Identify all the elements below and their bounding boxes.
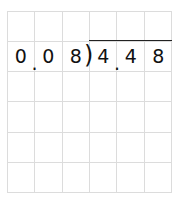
division-bar	[89, 40, 172, 41]
grid-cell	[8, 12, 35, 42]
grid-cell	[63, 12, 90, 42]
grid-cell	[145, 12, 172, 42]
grid-cell	[117, 102, 144, 132]
grid-cell	[90, 163, 117, 193]
grid-cell	[117, 72, 144, 102]
dividend-digit: 4	[117, 41, 145, 71]
grid-cell	[8, 102, 35, 132]
grid-cell	[35, 102, 62, 132]
grid-cell	[117, 133, 144, 163]
grid-cell	[145, 133, 172, 163]
digit: 4	[97, 45, 109, 67]
division-bracket: )	[84, 41, 93, 71]
dividend-digit: 8	[145, 41, 173, 71]
divisor-digit: 0 .	[7, 41, 35, 71]
grid-cell	[35, 163, 62, 193]
grid-cell	[90, 12, 117, 42]
divisor-digit: 0	[35, 41, 63, 71]
grid-cell	[90, 72, 117, 102]
grid-cell	[63, 163, 90, 193]
grid-cell	[8, 72, 35, 102]
grid-cell	[117, 163, 144, 193]
digit: 0	[42, 45, 54, 67]
grid-cell	[63, 102, 90, 132]
digit: 4	[125, 45, 137, 67]
grid-cell	[8, 163, 35, 193]
grid-cell	[117, 12, 144, 42]
grid-cell	[90, 133, 117, 163]
grid-cell	[35, 133, 62, 163]
grid-cell	[145, 163, 172, 193]
digit: 8	[70, 45, 82, 67]
grid-cell	[35, 72, 62, 102]
grid-paper	[7, 11, 172, 193]
grid-cell	[35, 12, 62, 42]
digit: 8	[152, 45, 164, 67]
grid-cell	[90, 102, 117, 132]
grid-cell	[63, 72, 90, 102]
digit: 0	[15, 45, 27, 67]
grid-cell	[145, 102, 172, 132]
dividend-digit: 4 .	[90, 41, 118, 71]
grid-cell	[63, 133, 90, 163]
grid-cell	[145, 72, 172, 102]
grid-cell	[8, 133, 35, 163]
